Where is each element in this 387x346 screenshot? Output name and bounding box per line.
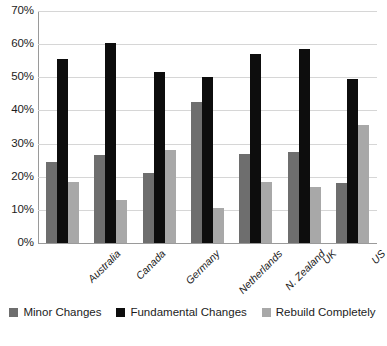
y-axis-tick-label: 40% xyxy=(0,104,34,116)
legend-swatch-icon xyxy=(262,308,271,317)
bar xyxy=(202,77,213,243)
bar-group xyxy=(135,11,183,243)
y-axis-tick-labels: 70%60%50%40%30%20%10%0% xyxy=(0,0,34,246)
bar xyxy=(336,183,347,243)
legend-label: Fundamental Changes xyxy=(130,306,246,318)
bar xyxy=(46,162,57,243)
x-axis-tick-label: UK xyxy=(321,248,339,266)
bar-group-bars xyxy=(329,11,377,243)
bar-group-bars xyxy=(232,11,280,243)
legend-label: Minor Changes xyxy=(23,306,101,318)
legend-swatch-icon xyxy=(116,308,125,317)
bar xyxy=(347,79,358,243)
bar xyxy=(94,155,105,243)
bar-group xyxy=(280,11,328,243)
bar xyxy=(213,208,224,243)
bar xyxy=(191,102,202,243)
bar xyxy=(239,154,250,243)
bar xyxy=(299,49,310,243)
x-axis-tick-labels: AustraliaCanadaGermanyNetherlandsN. Zeal… xyxy=(38,246,377,298)
x-axis-tick-label: Netherlands xyxy=(236,248,284,296)
gridline xyxy=(38,243,377,244)
bar-groups xyxy=(38,11,377,243)
legend-item[interactable]: Minor Changes xyxy=(9,306,101,318)
bar xyxy=(116,200,127,243)
legend-item[interactable]: Fundamental Changes xyxy=(116,306,246,318)
legend-swatch-icon xyxy=(9,308,18,317)
x-axis-tick-label: N. Zealand xyxy=(283,248,327,292)
legend-item[interactable]: Rebuild Completely xyxy=(262,306,376,318)
bar xyxy=(310,187,321,243)
y-axis-tick-label: 30% xyxy=(0,138,34,150)
y-axis-tick-label: 20% xyxy=(0,171,34,183)
bar-group xyxy=(38,11,86,243)
bar xyxy=(105,43,116,244)
bar-group-bars xyxy=(86,11,134,243)
bar xyxy=(250,54,261,243)
chart-legend: Minor ChangesFundamental ChangesRebuild … xyxy=(0,306,385,318)
y-axis-tick-label: 60% xyxy=(0,38,34,50)
x-axis-tick-label: Germany xyxy=(184,248,222,286)
y-axis-tick-label: 70% xyxy=(0,5,34,17)
bar-group xyxy=(86,11,134,243)
y-axis-tick-label: 10% xyxy=(0,204,34,216)
bar xyxy=(165,150,176,243)
bar xyxy=(358,125,369,243)
bar xyxy=(68,182,79,243)
bar xyxy=(143,173,154,243)
x-axis-tick-label: Australia xyxy=(86,248,123,285)
bar-group-bars xyxy=(280,11,328,243)
bar xyxy=(57,59,68,243)
plot-area xyxy=(38,11,377,243)
bar xyxy=(288,152,299,243)
bar-group xyxy=(329,11,377,243)
x-axis-tick-label: Canada xyxy=(133,248,167,282)
x-axis-tick-label: US xyxy=(369,248,387,266)
y-axis-tick-label: 0% xyxy=(0,237,34,249)
bar-group xyxy=(232,11,280,243)
bar xyxy=(154,72,165,243)
bar-group xyxy=(183,11,231,243)
bar-group-bars xyxy=(38,11,86,243)
y-axis-tick-label: 50% xyxy=(0,71,34,83)
bar xyxy=(261,182,272,243)
legend-label: Rebuild Completely xyxy=(276,306,376,318)
bar-group-bars xyxy=(135,11,183,243)
bar-group-bars xyxy=(183,11,231,243)
